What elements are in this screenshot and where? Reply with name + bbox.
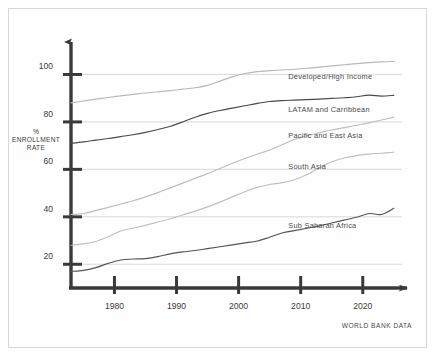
y-axis-title-line-3: RATE — [8, 144, 64, 152]
x-tick-label: 1980 — [94, 301, 134, 311]
x-tick-label: 2000 — [219, 301, 259, 311]
x-tick-marks — [114, 276, 362, 294]
y-tick-label: 20 — [29, 251, 53, 261]
series-label: Developed/High Income — [288, 72, 372, 81]
y-tick-label: 60 — [29, 156, 53, 166]
y-axis-title: % ENROLLMENT RATE — [8, 128, 64, 153]
y-tick-label: 80 — [29, 109, 53, 119]
y-tick-label: 100 — [29, 61, 53, 71]
y-axis-title-line-1: % — [8, 128, 64, 136]
series-lines — [71, 61, 394, 271]
series-label: Pacific and East Asia — [288, 131, 362, 140]
x-tick-label: 2010 — [281, 301, 321, 311]
series-label: LATAM and Carribbean — [288, 105, 370, 114]
y-axis-title-line-2: ENROLLMENT — [8, 136, 64, 144]
series-line — [71, 61, 394, 103]
x-tick-label: 2020 — [343, 301, 383, 311]
series-line — [71, 208, 394, 271]
gridlines — [71, 74, 402, 264]
x-tick-label: 1990 — [157, 301, 197, 311]
series-label: Sub Saharan Africa — [288, 221, 356, 230]
source-note: WORLD BANK DATA — [342, 322, 412, 329]
series-line — [71, 152, 394, 245]
y-tick-label: 40 — [29, 204, 53, 214]
series-label: South Asia — [288, 162, 326, 171]
